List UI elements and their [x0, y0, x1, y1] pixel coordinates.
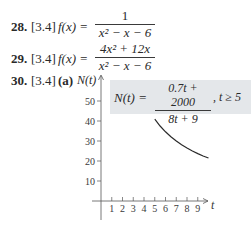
formula-lhs: N(t) =	[114, 90, 147, 106]
x-tick-label: 8	[185, 203, 190, 214]
y-tick-label: 20	[85, 156, 95, 167]
x-tick-label: 2	[120, 203, 125, 214]
formula-denominator: 8t + 9	[155, 112, 211, 126]
y-tick-label: 10	[85, 176, 95, 187]
x-tick-label: 6	[163, 203, 168, 214]
x-tick-label: 3	[131, 203, 136, 214]
fraction-bar	[155, 110, 211, 111]
y-tick-label: 50	[85, 96, 95, 107]
x-tick-label: 7	[174, 203, 179, 214]
graph: t 1234567891020304050	[0, 0, 252, 228]
x-tick-label: 9	[195, 203, 200, 214]
formula-box: N(t) = 0.7t + 2000 8t + 9 , t ≥ 5	[110, 80, 251, 114]
formula-numerator: 0.7t + 2000	[155, 81, 211, 109]
y-tick-label: 40	[85, 116, 95, 127]
formula-condition: , t ≥ 5	[213, 90, 241, 105]
formula-fraction: 0.7t + 2000 8t + 9	[155, 81, 211, 126]
x-axis-label: t	[211, 198, 215, 212]
x-tick-label: 5	[152, 203, 157, 214]
x-tick-label: 4	[142, 203, 147, 214]
y-tick-label: 30	[85, 136, 95, 147]
x-tick-label: 1	[109, 203, 114, 214]
